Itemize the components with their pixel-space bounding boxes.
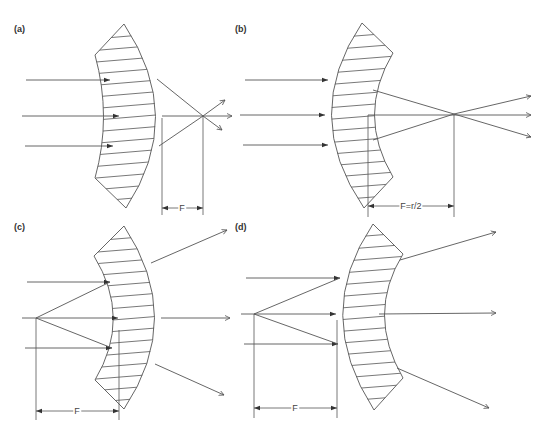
panel-a-label: (a)	[14, 24, 25, 34]
light-ray	[155, 364, 224, 395]
light-ray	[379, 313, 496, 314]
light-ray	[151, 230, 227, 263]
panel-b	[240, 23, 531, 217]
lens-hatching	[330, 233, 406, 402]
panel-c	[22, 226, 230, 420]
panel-d-focal-length-label: F	[291, 403, 299, 413]
light-ray	[373, 90, 531, 137]
panel-c-label: (c)	[14, 222, 25, 232]
panel-d	[241, 224, 496, 418]
panel-d-label: (d)	[235, 222, 247, 232]
panel-a-focal-length-label: F	[178, 203, 186, 213]
light-ray	[157, 79, 222, 130]
light-ray	[36, 318, 112, 348]
lens-ray-diagram-figure: (a) (b) (c) (d) F F=r/2 F F	[0, 0, 553, 437]
panel-b-label: (b)	[235, 24, 247, 34]
light-ray	[254, 278, 340, 314]
lens-hatching	[94, 235, 168, 402]
light-ray	[36, 282, 110, 318]
light-ray	[254, 314, 338, 344]
light-ray	[373, 96, 531, 140]
panel-a	[22, 24, 232, 215]
lens-hatching	[96, 33, 168, 201]
light-ray	[397, 368, 489, 408]
lens-outline	[331, 23, 393, 208]
diagram-canvas	[0, 0, 553, 437]
light-ray	[400, 232, 496, 260]
panel-b-focal-length-label: F=r/2	[399, 201, 422, 211]
panel-c-focal-length-label: F	[73, 406, 81, 416]
